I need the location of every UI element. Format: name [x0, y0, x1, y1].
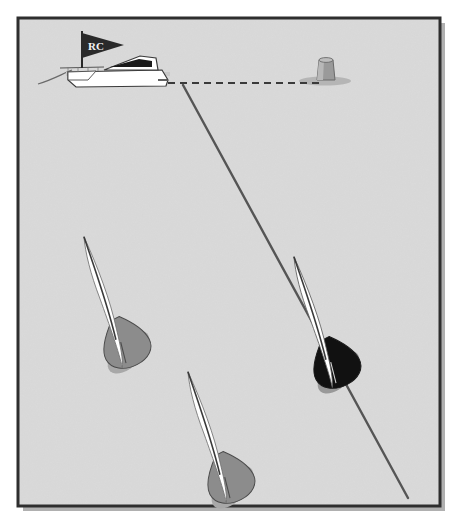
flag-label-rc: RC: [88, 40, 104, 52]
sailing-race-illustration: RC: [0, 0, 459, 526]
diagram-root: RC: [0, 0, 459, 526]
paper-grain: [20, 20, 438, 504]
mark-top: [319, 58, 333, 63]
